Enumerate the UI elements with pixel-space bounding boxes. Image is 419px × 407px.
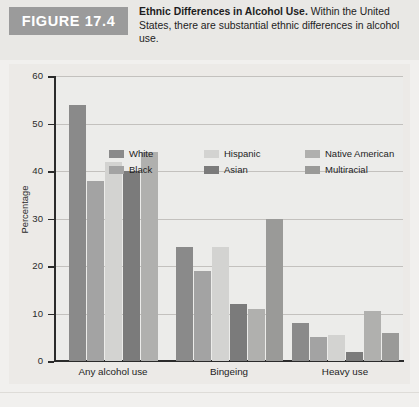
legend-label: White (129, 148, 153, 159)
bar-hispanic (212, 247, 229, 361)
x-axis-label: Bingeing (171, 366, 287, 377)
figure-caption: Ethnic Differences in Alcohol Use. Withi… (139, 5, 407, 46)
bar-asian (230, 304, 247, 361)
bar-native-american (364, 311, 381, 361)
legend-item-multiracial: Multiracial (305, 164, 368, 175)
bar-series-layer (55, 76, 403, 361)
y-axis-tick-label: 10 (13, 308, 43, 319)
bar-white (176, 247, 193, 361)
bar-multiracial (266, 219, 283, 362)
legend-swatch (109, 166, 124, 174)
x-axis-label: Any alcohol use (55, 366, 171, 377)
chart-legend: WhiteBlackHispanicAsianNative AmericanMu… (109, 148, 409, 180)
legend-item-native-american: Native American (305, 148, 394, 159)
y-axis-tick-label: 60 (13, 70, 43, 81)
legend-swatch (109, 150, 124, 158)
y-axis-tick-label: 50 (13, 118, 43, 129)
bar-asian (346, 352, 363, 362)
legend-label: Multiracial (325, 164, 368, 175)
legend-swatch (305, 150, 320, 158)
bar-black (194, 271, 211, 361)
bar-hispanic (105, 162, 122, 362)
bar-native-american (248, 309, 265, 361)
bar-multiracial (382, 333, 399, 362)
figure-container: FIGURE 17.4 Ethnic Differences in Alcoho… (0, 0, 419, 407)
figure-number-badge: FIGURE 17.4 (9, 7, 128, 35)
bar-hispanic (328, 335, 345, 361)
legend-item-hispanic: Hispanic (204, 148, 260, 159)
bar-native-american (141, 152, 158, 361)
chart-plot-area: 0102030405060 Percentage Any alcohol use… (9, 64, 410, 384)
legend-label: Hispanic (224, 148, 260, 159)
y-axis-label: Percentage (19, 155, 30, 265)
bar-black (87, 181, 104, 362)
figure-header: FIGURE 17.4 Ethnic Differences in Alcoho… (0, 0, 419, 60)
legend-swatch (204, 166, 219, 174)
figure-footer-divider (0, 392, 419, 393)
legend-item-white: White (109, 148, 153, 159)
x-axis-label: Heavy use (287, 366, 403, 377)
bar-white (69, 105, 86, 362)
figure-caption-title: Ethnic Differences in Alcohol Use. (139, 6, 308, 17)
bar-black (310, 337, 327, 361)
legend-swatch (204, 150, 219, 158)
bar-asian (123, 171, 140, 361)
legend-label: Black (129, 164, 152, 175)
bar-white (292, 323, 309, 361)
legend-label: Asian (224, 164, 248, 175)
legend-label: Native American (325, 148, 394, 159)
y-axis-tick-label: 0 (13, 355, 43, 366)
legend-item-black: Black (109, 164, 152, 175)
legend-item-asian: Asian (204, 164, 248, 175)
legend-swatch (305, 166, 320, 174)
